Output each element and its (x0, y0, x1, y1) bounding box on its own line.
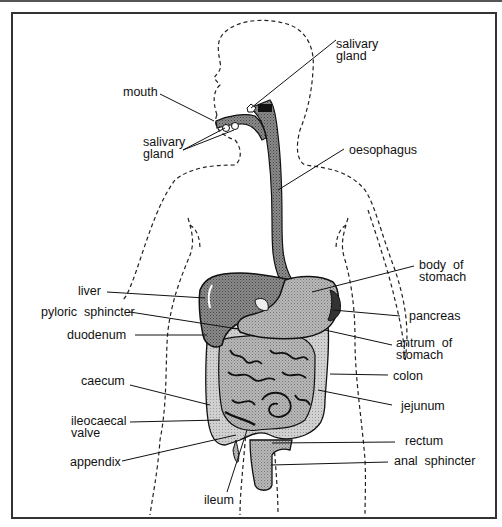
label-jejunum: jejunum (401, 400, 445, 412)
label-salivary-gland-upper: salivarygland (336, 38, 378, 62)
label-body-of-stomach: body ofstomach (419, 259, 466, 283)
label-line: stomach (419, 270, 466, 284)
label-caecum: caecum (81, 375, 125, 387)
label-appendix: appendix (70, 456, 121, 468)
label-line: valve (71, 426, 100, 440)
label-ileum: ileum (204, 494, 234, 506)
label-salivary-gland-lower: salivarygland (143, 136, 185, 160)
small-intestine-shape (219, 335, 315, 430)
label-oesophagus: oesophagus (349, 144, 417, 156)
label-rectum: rectum (405, 435, 443, 447)
label-colon: colon (393, 370, 423, 382)
label-liver: liver (78, 285, 101, 297)
oesophagus-shape (216, 100, 292, 280)
label-line: gland (143, 147, 174, 161)
label-pyloric-sphincter: pyloric sphincter (41, 306, 135, 318)
label-mouth: mouth (123, 86, 158, 98)
label-antrum-of-stomach: antrum ofstomach (396, 337, 452, 361)
label-ileocaecal-valve: ileocaecalvalve (71, 415, 127, 439)
label-line: stomach (396, 348, 443, 362)
label-pancreas: pancreas (409, 310, 460, 322)
label-line: gland (336, 49, 367, 63)
label-anal-sphincter: anal sphincter (394, 455, 475, 467)
label-duodenum: duodenum (67, 329, 126, 341)
